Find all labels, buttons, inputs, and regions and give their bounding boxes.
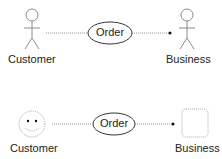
association-end-dot-icon bbox=[169, 32, 172, 35]
association-end-dot-icon bbox=[172, 123, 175, 126]
actor-label-customer: Customer bbox=[8, 53, 56, 65]
use-case-label: Order bbox=[88, 26, 132, 38]
actor-label-customer: Customer bbox=[10, 142, 58, 154]
stick-figure-actor-icon bbox=[179, 9, 195, 49]
rounded-box-actor-icon bbox=[182, 109, 208, 137]
actor-label-business: Business bbox=[166, 53, 211, 65]
use-case-label: Order bbox=[93, 117, 135, 129]
actor-label-business: Business bbox=[175, 142, 220, 154]
smiley-face-actor-icon bbox=[19, 111, 45, 137]
stick-figure-actor-icon bbox=[24, 9, 40, 49]
use-case-diagram: Order Customer Business Order Customer B… bbox=[0, 0, 222, 159]
